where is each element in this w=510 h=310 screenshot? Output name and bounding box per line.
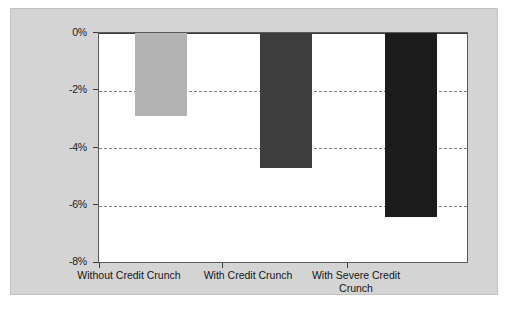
bar-without-credit-crunch[interactable] (135, 33, 187, 116)
plot-area (98, 32, 468, 263)
x-tick-label-with-severe-credit-crunch: With Severe Credit Crunch (301, 269, 411, 295)
x-tick-mark-2 (347, 263, 348, 268)
x-tick-mark-0 (99, 263, 100, 268)
y-tick-label-3: -6% (41, 198, 87, 210)
y-tick-label-4: -8% (41, 255, 87, 267)
bar-with-credit-crunch[interactable] (260, 33, 312, 168)
y-tick-label-0: 0% (41, 26, 87, 38)
bar-with-severe-credit-crunch[interactable] (385, 33, 437, 217)
y-tick-label-2: -4% (41, 141, 87, 153)
x-tick-label-with-credit-crunch: With Credit Crunch (183, 269, 313, 282)
plot-inner (99, 33, 467, 262)
x-tick-mark-1 (222, 263, 223, 268)
chart-figure: 0% -2% -4% -6% -8% Without Credit Crunch (10, 8, 498, 295)
y-tick-label-1: -2% (41, 83, 87, 95)
